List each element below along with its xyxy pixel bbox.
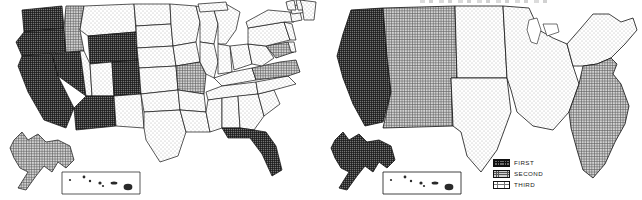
state-ks — [139, 66, 178, 94]
state-mo — [176, 62, 206, 94]
map-panel-left — [0, 0, 321, 200]
legend-item-second: SECOND — [493, 169, 543, 179]
state-mt — [80, 4, 136, 36]
state-or — [16, 28, 66, 56]
legend-swatch-second-icon — [493, 170, 510, 178]
state-wy — [88, 32, 138, 64]
region-pacific-coast — [337, 8, 391, 126]
state-co — [112, 60, 141, 96]
state-nd — [134, 4, 171, 26]
state-vt — [286, 0, 296, 10]
state-al — [222, 96, 240, 128]
legend-swatch-third-icon — [493, 181, 510, 189]
state-ok — [141, 90, 180, 112]
state-in — [218, 44, 232, 74]
region-northeast — [567, 14, 637, 66]
map-legend: FIRST SECOND THIRD — [493, 158, 543, 191]
legend-label-first: FIRST — [514, 160, 534, 166]
region-midwest — [503, 6, 579, 130]
region-great-plains — [455, 6, 507, 78]
state-fl — [222, 128, 282, 176]
state-tx — [144, 110, 186, 162]
state-sd — [136, 24, 173, 48]
state-ut-b — [90, 62, 114, 96]
legend-label-second: SECOND — [514, 171, 543, 177]
state-ne — [137, 46, 176, 68]
right-map-svg — [321, 0, 642, 200]
region-south-atlantic — [569, 58, 629, 178]
state-mn — [170, 4, 200, 46]
state-me — [300, 0, 316, 20]
left-map-svg — [0, 0, 321, 200]
state-wa — [22, 6, 64, 32]
figure-choropleth-pair: FIRST SECOND THIRD — [0, 0, 642, 200]
state-nm — [114, 94, 144, 128]
state-mi-up — [198, 2, 228, 12]
region-mountain-west — [383, 6, 457, 128]
legend-item-third: THIRD — [493, 180, 543, 190]
legend-label-third: THIRD — [514, 182, 535, 188]
legend-swatch-first-icon — [493, 159, 510, 167]
legend-item-first: FIRST — [493, 158, 543, 168]
state-az — [74, 96, 116, 130]
map-panel-right — [321, 0, 642, 200]
